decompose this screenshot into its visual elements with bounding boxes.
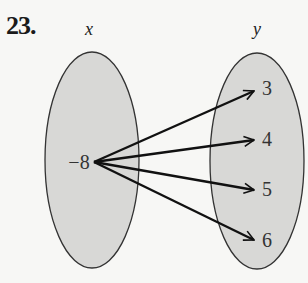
- range-element-5: 5: [262, 178, 272, 200]
- domain-set: x −8: [45, 19, 139, 268]
- range-ellipse: [210, 53, 304, 269]
- range-label: y: [251, 19, 261, 39]
- range-element-6: 6: [262, 229, 272, 251]
- domain-label: x: [84, 19, 93, 39]
- mapping-diagram: x −8 y 3 4 5 6: [0, 0, 308, 283]
- domain-ellipse: [45, 52, 139, 268]
- range-element-3: 3: [262, 77, 272, 99]
- range-element-4: 4: [262, 128, 272, 150]
- domain-element: −8: [68, 151, 89, 173]
